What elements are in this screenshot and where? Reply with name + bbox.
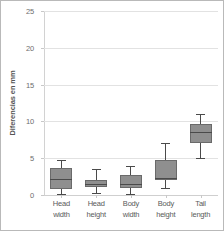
whisker-upper [200,114,201,124]
x-tick-mark [201,195,202,198]
x-tick-mark [166,195,167,198]
x-axis-label-line: Body [114,199,149,210]
whisker-lower [200,143,201,158]
x-axis-label: Headwidth [44,197,79,229]
x-axis-label-line: Head [79,199,114,210]
box-plot-figure: Diferencias en mm 0510152025 HeadwidthHe… [0,0,224,231]
x-axis-label-line: Body [148,199,183,210]
x-tick-mark [131,195,132,198]
whisker-lower [165,180,166,187]
y-tick-label: 15 [12,80,34,89]
box-plot-series [183,11,218,195]
x-axis-label: Taillength [183,197,218,229]
x-axis-label-line: width [114,210,149,221]
whisker-upper [96,169,97,179]
x-axis-label: Bodywidth [114,197,149,229]
median-line [85,184,107,185]
x-axis-label-line: Head [44,199,79,210]
x-axis-label-line: length [183,210,218,221]
x-axis-labels: HeadwidthHeadheightBodywidthBodyheightTa… [44,197,218,229]
whisker-cap-upper [92,169,101,170]
whisker-cap-lower [161,188,170,189]
whisker-cap-upper [57,160,66,161]
y-tick-label: 0 [12,191,34,200]
x-axis-label-line: height [148,210,183,221]
whisker-upper [130,166,131,176]
median-line [50,179,72,180]
y-tick-label: 10 [12,117,34,126]
y-tick-label: 5 [12,154,34,163]
box-rect [190,124,212,144]
median-line [190,132,212,133]
median-line [155,178,177,179]
box-plot-series [79,11,114,195]
y-tick-label: 20 [12,43,34,52]
box-plot-series [114,11,149,195]
x-axis-label: Headheight [79,197,114,229]
box-rect [120,175,142,188]
y-tick-label: 25 [12,7,34,16]
whisker-cap-lower [92,193,101,194]
whisker-cap-upper [196,114,205,115]
box-plot-series [44,11,79,195]
x-tick-mark [61,195,62,198]
x-axis-label-line: Tail [183,199,218,210]
box-plot-series [148,11,183,195]
x-axis-label-line: width [44,210,79,221]
x-axis-label-line: height [79,210,114,221]
whisker-upper [61,160,62,168]
x-tick-mark [96,195,97,198]
x-axis-label: Bodyheight [148,197,183,229]
whisker-upper [165,143,166,160]
whisker-cap-upper [126,166,135,167]
whisker-cap-upper [161,143,170,144]
median-line [120,184,142,185]
whisker-cap-lower [196,158,205,159]
y-tick-mark [41,195,44,196]
y-axis-title: Diferencias en mm [7,11,18,195]
plot-area: 0510152025 [44,11,218,195]
